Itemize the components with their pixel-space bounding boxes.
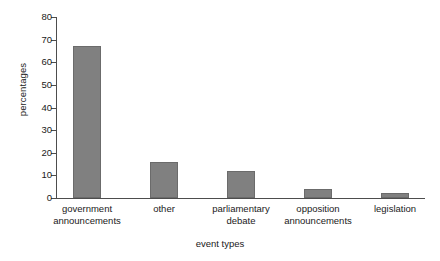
x-tick-label-line: legislation — [340, 203, 440, 215]
y-tick-label: 30 — [41, 124, 52, 135]
y-tick-label: 50 — [41, 79, 52, 90]
x-tick-label-legislation: legislation — [340, 203, 440, 215]
y-axis-line — [56, 17, 57, 198]
bar-opposition-announcements — [304, 189, 332, 198]
y-tick-label: 20 — [41, 147, 52, 158]
bar-other — [150, 162, 178, 198]
bar-government-announcements — [73, 46, 101, 198]
bar-legislation — [381, 193, 409, 198]
x-tick-label-line: announcements — [263, 215, 373, 227]
x-tick-label-line: announcements — [32, 215, 142, 227]
bar-parliamentary-debate — [227, 171, 255, 198]
y-tick-label: 70 — [41, 34, 52, 45]
y-tick-label: 60 — [41, 56, 52, 67]
x-axis-line — [56, 198, 425, 199]
y-tick-label: 40 — [41, 102, 52, 113]
y-tick-label: 80 — [41, 11, 52, 22]
x-axis-title: event types — [0, 238, 440, 249]
y-axis-title: percentages — [17, 30, 28, 150]
plot-area: 0 10 20 30 40 50 60 70 — [56, 17, 425, 198]
y-tick-label: 10 — [41, 169, 52, 180]
bar-chart: percentages 0 10 20 30 40 50 — [0, 0, 440, 261]
y-tick-label: 0 — [47, 192, 52, 203]
